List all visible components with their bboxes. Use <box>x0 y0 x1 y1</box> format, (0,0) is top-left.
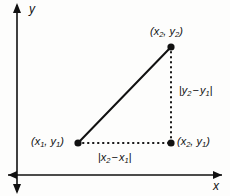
point-bottom-right-label: (x2, y1) <box>177 136 210 147</box>
minus-sign: − <box>192 84 200 96</box>
paren-close: ) <box>179 25 183 37</box>
y-axis-label: y <box>29 3 35 15</box>
y-axis <box>13 3 21 194</box>
sub-2: 1 <box>124 156 128 165</box>
point-top-right-dot <box>167 43 174 50</box>
abs-bar-close: | <box>129 151 132 163</box>
x-sub: 1 <box>40 140 44 149</box>
minus-sign: − <box>111 151 119 163</box>
y-sub: 1 <box>202 140 206 149</box>
diagram-canvas <box>0 0 230 196</box>
point-bottom-left-label: (x1, y1) <box>31 136 64 147</box>
horizontal-leg-label: |x2−x1| <box>98 152 132 163</box>
sub-2: 1 <box>205 89 209 98</box>
abs-bar-close: | <box>210 84 213 96</box>
point-top-right-label: (x2, y2) <box>150 26 183 37</box>
y-sub: 2 <box>175 30 179 39</box>
point-bottom-right-dot <box>167 139 174 146</box>
paren-close: ) <box>206 135 210 147</box>
x-sub: 2 <box>159 30 163 39</box>
point-bottom-left-dot <box>74 139 81 146</box>
x-axis-label: x <box>213 180 219 192</box>
x-axis-arrow-left <box>8 171 17 179</box>
distance-formula-diagram: (x2, y2) (x1, y1) (x2, y1) |y2−y1| |x2−x… <box>0 0 230 196</box>
y-axis-arrow-down <box>13 184 21 194</box>
x-axis <box>8 171 222 179</box>
x-sub: 2 <box>186 140 190 149</box>
y-axis-arrow-up <box>13 3 21 13</box>
sub-1: 2 <box>187 89 191 98</box>
x-axis-arrow-right <box>213 171 222 179</box>
paren-close: ) <box>60 135 64 147</box>
vertical-leg-label: |y2−y1| <box>179 85 213 96</box>
sub-1: 2 <box>106 156 110 165</box>
hypotenuse-segment <box>78 47 171 143</box>
y-sub: 1 <box>56 140 60 149</box>
